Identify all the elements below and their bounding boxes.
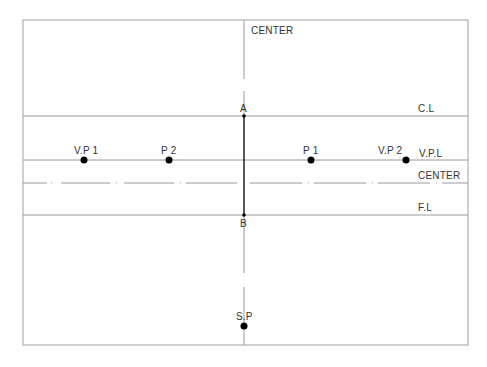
p2-marker bbox=[166, 157, 173, 164]
p2-label: P 2 bbox=[161, 146, 176, 156]
point-b-label: B bbox=[240, 219, 247, 229]
vp2-marker bbox=[403, 157, 410, 164]
sp-label: S.P bbox=[236, 312, 253, 322]
point-b-marker bbox=[242, 213, 246, 217]
center-horizontal-label: CENTER bbox=[418, 171, 460, 181]
center-vertical-label: CENTER bbox=[251, 26, 293, 36]
point-a-marker bbox=[242, 114, 246, 118]
vp1-marker bbox=[81, 157, 88, 164]
vpl-label: V.P.L bbox=[419, 149, 442, 159]
fl-label: F.L bbox=[418, 203, 432, 213]
cl-label: C.L bbox=[418, 104, 434, 114]
sp-marker bbox=[241, 323, 248, 330]
p1-label: P 1 bbox=[303, 146, 318, 156]
p1-marker bbox=[308, 157, 315, 164]
vp2-label: V.P 2 bbox=[378, 146, 402, 156]
vp1-label: V.P 1 bbox=[74, 146, 98, 156]
point-a-label: A bbox=[240, 104, 247, 114]
